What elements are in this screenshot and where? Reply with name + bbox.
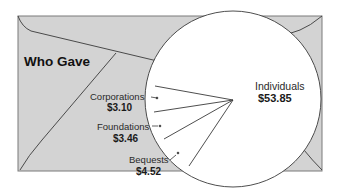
label-individuals: Individuals bbox=[255, 81, 305, 92]
pie-circle bbox=[145, 11, 321, 187]
leader-dot-bequests bbox=[177, 152, 179, 154]
leader-dot-corporations bbox=[156, 97, 158, 99]
value-foundations: $3.46 bbox=[113, 133, 138, 144]
label-foundations: Foundations bbox=[97, 121, 149, 132]
label-corporations: Corporations bbox=[90, 91, 144, 102]
label-bequests: Bequests bbox=[129, 154, 169, 165]
leader-dot-foundations bbox=[159, 125, 161, 127]
value-individuals: $53.85 bbox=[258, 93, 292, 104]
chart-title: Who Gave bbox=[24, 54, 90, 69]
value-corporations: $3.10 bbox=[107, 102, 132, 113]
value-bequests: $4.52 bbox=[136, 166, 161, 177]
